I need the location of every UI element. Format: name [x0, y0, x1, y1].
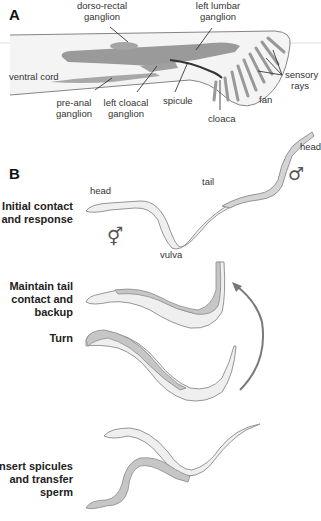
step-4-line-2: and transfer: [9, 473, 73, 485]
label-pre-anal-2: ganglion: [56, 108, 92, 119]
hermaphrodite-worm-3: [86, 332, 236, 401]
label-head-herm: head: [90, 185, 111, 196]
label-sensory: sensory: [285, 69, 319, 80]
turn-arrow: [234, 284, 263, 390]
panel-b-letter: B: [9, 165, 20, 182]
hermaphrodite-symbol-icon: ⚥: [107, 226, 123, 247]
male-symbol-icon: ♂: [288, 163, 304, 184]
label-left-cloacal-2: ganglion: [108, 108, 144, 119]
step-4-line-1: Insert spicules: [0, 460, 73, 472]
label-fan: fan: [259, 94, 272, 105]
step-2-line-3: backup: [34, 306, 73, 318]
label-rays: rays: [291, 80, 309, 91]
step-1-line-2: and response: [1, 213, 73, 225]
label-left-lumbar-2: ganglion: [200, 11, 236, 22]
label-left-cloacal: left cloacal: [104, 97, 149, 108]
label-head-male: head: [300, 141, 321, 152]
step-4-line-3: sperm: [40, 486, 73, 498]
label-vulva: vulva: [160, 249, 183, 260]
label-left-lumbar: left lumbar: [196, 0, 240, 11]
label-spicule: spicule: [163, 95, 193, 106]
label-dorso-rectal-2: ganglion: [84, 11, 120, 22]
arrow-head-icon: [232, 282, 242, 292]
step-2-line-2: contact and: [11, 293, 73, 305]
step-3-line-1: Turn: [49, 332, 73, 344]
label-ventral-cord: ventral cord: [9, 71, 59, 82]
step-2-line-1: Maintain tail: [9, 280, 73, 292]
label-cloaca: cloaca: [208, 113, 236, 124]
label-dorso-rectal: dorso-rectal: [77, 0, 127, 11]
dorso-rectal-ganglion: [110, 42, 138, 50]
panel-b: B Initial contact and response Maintain …: [0, 132, 321, 509]
label-tail: tail: [202, 176, 214, 187]
panel-a: A: [0, 0, 321, 124]
label-pre-anal: pre-anal: [57, 97, 92, 108]
male-worm-3: [86, 330, 186, 390]
figure: A: [0, 0, 321, 521]
panel-a-letter: A: [9, 6, 20, 23]
step-1-line-1: Initial contact: [2, 200, 73, 212]
